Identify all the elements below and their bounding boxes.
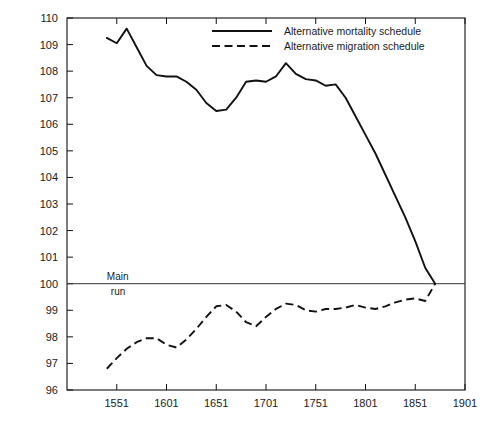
x-axis-tick-label: 1551 — [105, 397, 129, 409]
x-axis-tick-label: 1651 — [204, 397, 228, 409]
y-axis-tick-label: 101 — [40, 251, 58, 263]
chart-background — [0, 0, 487, 423]
legend-label-mortality: Alternative mortality schedule — [284, 25, 421, 37]
x-axis-tick-label: 1701 — [254, 397, 278, 409]
main-run-label-line2: run — [111, 286, 125, 297]
y-axis-tick-label: 102 — [40, 225, 58, 237]
y-axis-tick-label: 97 — [46, 357, 58, 369]
y-axis-tick-label: 96 — [46, 384, 58, 396]
y-axis-tick-label: 106 — [40, 118, 58, 130]
y-axis-tick-label: 103 — [40, 198, 58, 210]
y-axis-tick-label: 98 — [46, 331, 58, 343]
y-axis-tick-label: 108 — [40, 65, 58, 77]
x-axis-tick-label: 1601 — [154, 397, 178, 409]
y-axis-tick-label: 110 — [40, 12, 58, 24]
y-axis-tick-label: 105 — [40, 145, 58, 157]
chart-container: 9697989910010110210310410510610710810911… — [0, 0, 487, 423]
y-axis-tick-label: 99 — [46, 304, 58, 316]
y-axis-tick-label: 104 — [40, 171, 58, 183]
y-axis-tick-label: 107 — [40, 92, 58, 104]
x-axis-tick-label: 1901 — [453, 397, 477, 409]
y-axis-tick-label: 109 — [40, 39, 58, 51]
y-axis-tick-label: 100 — [40, 278, 58, 290]
x-axis-tick-label: 1851 — [403, 397, 427, 409]
legend-label-migration: Alternative migration schedule — [284, 40, 425, 52]
x-axis-tick-label: 1801 — [353, 397, 377, 409]
line-chart: 9697989910010110210310410510610710810911… — [0, 0, 487, 423]
x-axis-tick-label: 1751 — [304, 397, 328, 409]
main-run-label-line1: Main — [107, 271, 129, 282]
